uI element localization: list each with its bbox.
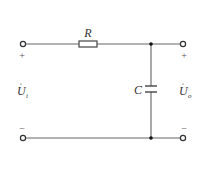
output-terminal-top	[180, 41, 185, 46]
input-terminal-top	[20, 41, 25, 46]
circuit-svg: R C U i U o + − + −	[0, 0, 204, 191]
rc-circuit-diagram: R C U i U o + − + −	[0, 0, 204, 191]
resistor-label: R	[83, 26, 92, 40]
capacitor-label: C	[134, 83, 143, 97]
terminals	[20, 41, 185, 140]
output-minus-sign: −	[181, 123, 187, 134]
resistor-symbol	[79, 41, 97, 47]
output-voltage-label: U o	[179, 83, 192, 100]
input-terminal-bottom	[20, 135, 25, 140]
capacitor-symbol	[145, 86, 157, 92]
input-plus-sign: +	[19, 50, 25, 61]
junction-node-top	[149, 42, 153, 46]
input-voltage-label: U i	[17, 83, 28, 100]
svg-text:o: o	[188, 92, 192, 100]
output-terminal-bottom	[180, 135, 185, 140]
svg-text:i: i	[26, 92, 28, 100]
input-minus-sign: −	[19, 123, 25, 134]
junction-node-bottom	[149, 136, 153, 140]
output-plus-sign: +	[181, 50, 187, 61]
